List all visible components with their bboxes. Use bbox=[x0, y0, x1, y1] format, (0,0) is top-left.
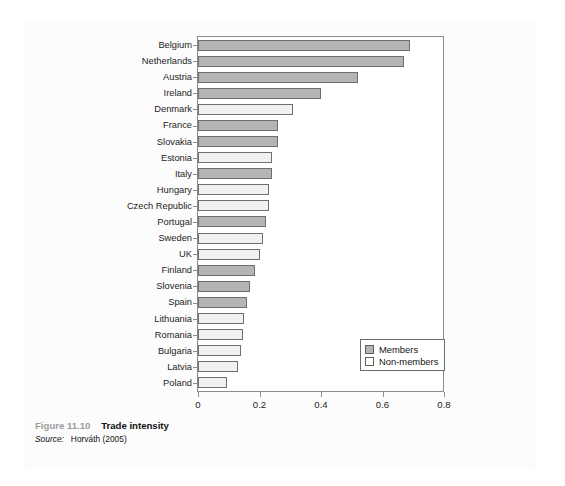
figure-caption: Figure 11.10 Trade intensity Source: Hor… bbox=[35, 419, 455, 446]
bar-row bbox=[198, 85, 444, 101]
bar-bulgaria bbox=[198, 345, 241, 356]
x-tick-label-0.6: 0.6 bbox=[376, 399, 389, 410]
y-label-latvia: Latvia bbox=[167, 359, 192, 375]
bar-italy bbox=[198, 168, 272, 179]
y-tick bbox=[193, 286, 197, 287]
bar-denmark bbox=[198, 104, 293, 115]
bar-portugal bbox=[198, 216, 266, 227]
figure-number: Figure 11.10 bbox=[35, 420, 90, 431]
y-tick bbox=[193, 61, 197, 62]
y-tick bbox=[193, 77, 197, 78]
bar-netherlands bbox=[198, 56, 404, 67]
bar-uk bbox=[198, 249, 260, 260]
legend-label-members: Members bbox=[379, 344, 418, 355]
figure-container: BelgiumNetherlandsAustriaIrelandDenmarkF… bbox=[25, 22, 535, 468]
bar-sweden bbox=[198, 233, 263, 244]
y-label-bulgaria: Bulgaria bbox=[158, 343, 192, 359]
y-label-sweden: Sweden bbox=[158, 230, 192, 246]
caption-source-line: Source: Horváth (2005) bbox=[35, 433, 455, 446]
y-label-hungary: Hungary bbox=[157, 182, 192, 198]
y-label-portugal: Portugal bbox=[157, 214, 192, 230]
bar-row bbox=[198, 101, 444, 117]
bar-ireland bbox=[198, 88, 321, 99]
bar-estonia bbox=[198, 152, 272, 163]
y-tick bbox=[193, 142, 197, 143]
y-tick bbox=[193, 206, 197, 207]
bar-row bbox=[198, 310, 444, 326]
y-tick bbox=[193, 93, 197, 94]
bar-poland bbox=[198, 377, 227, 388]
y-label-romania: Romania bbox=[155, 327, 192, 343]
legend-swatch-members bbox=[365, 345, 374, 354]
y-label-finland: Finland bbox=[162, 262, 193, 278]
bar-row bbox=[198, 37, 444, 53]
y-axis-category-labels: BelgiumNetherlandsAustriaIrelandDenmarkF… bbox=[25, 37, 192, 391]
y-tick bbox=[193, 126, 197, 127]
source-label: Source: bbox=[35, 434, 64, 444]
bar-row bbox=[198, 133, 444, 149]
x-tick-label-0.8: 0.8 bbox=[437, 399, 450, 410]
bar-row bbox=[198, 214, 444, 230]
y-tick bbox=[193, 174, 197, 175]
legend-item-members: Members bbox=[365, 343, 438, 355]
bar-austria bbox=[198, 72, 358, 83]
y-label-netherlands: Netherlands bbox=[142, 53, 192, 69]
bar-row bbox=[198, 262, 444, 278]
bar-hungary bbox=[198, 184, 269, 195]
chart-legend: Members Non-members bbox=[360, 339, 445, 371]
y-label-france: France bbox=[163, 117, 192, 133]
y-tick bbox=[193, 254, 197, 255]
y-tick bbox=[193, 319, 197, 320]
y-tick bbox=[193, 367, 197, 368]
figure-title: Trade intensity bbox=[101, 420, 169, 431]
bar-row bbox=[198, 150, 444, 166]
bar-row bbox=[198, 53, 444, 69]
x-tick bbox=[321, 392, 322, 397]
page-background: BelgiumNetherlandsAustriaIrelandDenmarkF… bbox=[0, 0, 565, 486]
bar-row bbox=[198, 375, 444, 391]
y-label-denmark: Denmark bbox=[154, 101, 192, 117]
y-tick bbox=[193, 303, 197, 304]
bar-romania bbox=[198, 329, 243, 340]
caption-title-line: Figure 11.10 Trade intensity bbox=[35, 419, 455, 433]
y-tick bbox=[193, 351, 197, 352]
bar-latvia bbox=[198, 361, 238, 372]
y-label-poland: Poland bbox=[163, 375, 192, 391]
y-tick bbox=[193, 222, 197, 223]
bar-row bbox=[198, 166, 444, 182]
y-tick bbox=[193, 335, 197, 336]
y-tick bbox=[193, 190, 197, 191]
bar-row bbox=[198, 294, 444, 310]
y-tick bbox=[193, 158, 197, 159]
x-tick bbox=[260, 392, 261, 397]
bar-row bbox=[198, 182, 444, 198]
bar-chart: BelgiumNetherlandsAustriaIrelandDenmarkF… bbox=[25, 22, 535, 412]
y-tick bbox=[193, 270, 197, 271]
y-label-belgium: Belgium bbox=[158, 37, 192, 53]
legend-item-non-members: Non-members bbox=[365, 355, 438, 367]
bar-france bbox=[198, 120, 278, 131]
x-tick bbox=[444, 392, 445, 397]
y-label-estonia: Estonia bbox=[161, 150, 192, 166]
y-label-uk: UK bbox=[179, 246, 192, 262]
bar-belgium bbox=[198, 40, 410, 51]
x-tick-label-0.4: 0.4 bbox=[314, 399, 327, 410]
bar-row bbox=[198, 278, 444, 294]
y-label-austria: Austria bbox=[163, 69, 192, 85]
bar-row bbox=[198, 69, 444, 85]
y-label-slovenia: Slovenia bbox=[156, 278, 192, 294]
y-label-spain: Spain bbox=[168, 294, 192, 310]
x-tick bbox=[383, 392, 384, 397]
x-tick bbox=[198, 392, 199, 397]
bar-lithuania bbox=[198, 313, 244, 324]
bar-czech-republic bbox=[198, 200, 269, 211]
legend-swatch-non-members bbox=[365, 357, 374, 366]
bar-row bbox=[198, 117, 444, 133]
bar-spain bbox=[198, 297, 247, 308]
bar-series bbox=[198, 37, 444, 391]
y-label-italy: Italy bbox=[175, 166, 192, 182]
legend-label-non-members: Non-members bbox=[379, 356, 438, 367]
bar-row bbox=[198, 230, 444, 246]
y-tick bbox=[193, 45, 197, 46]
y-label-czech-republic: Czech Republic bbox=[127, 198, 192, 214]
